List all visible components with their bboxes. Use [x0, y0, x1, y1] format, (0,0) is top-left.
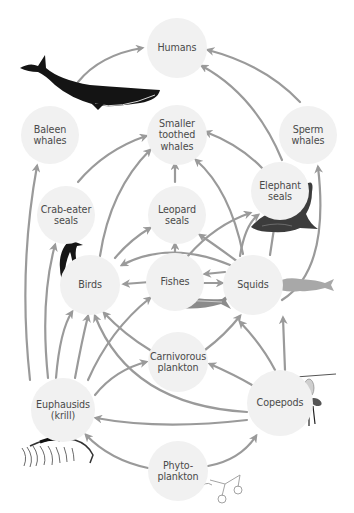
arrow-elephant-to-humans [202, 66, 282, 160]
arrow-krill-to-birds [56, 312, 72, 378]
arrow-squids-to-fishes [205, 272, 225, 274]
node-label: Carnivorous plankton [150, 351, 206, 374]
node-label: Fishes [161, 276, 190, 288]
arrow-birds-to-toothed [100, 150, 150, 256]
node-carniv: Carnivorous plankton [148, 332, 208, 392]
node-fishes: Fishes [146, 253, 204, 311]
node-toothed: Smaller toothed whales [147, 105, 207, 165]
arrow-elephant-to-toothed [206, 132, 262, 168]
node-elephant: Elephant seals [251, 162, 309, 220]
arrow-phyto-to-krill [86, 435, 148, 468]
arrow-sperm-to-humans [208, 50, 300, 102]
arrow-copepods-to-carniv [210, 364, 252, 385]
node-label: Phyto- plankton [157, 460, 198, 483]
arrow-baleen-to-humans [78, 48, 142, 82]
node-birds: Birds [60, 255, 120, 315]
node-crabeater: Crab-eater seals [37, 186, 95, 244]
node-copepods: Copepods [247, 370, 313, 436]
node-humans: Humans [147, 18, 207, 78]
arrow-squids-to-leopard [200, 235, 238, 262]
arrow-copepods-to-squids [240, 322, 275, 370]
node-label: Baleen whales [34, 124, 67, 147]
arrow-krill-to-birds-2 [75, 316, 88, 378]
node-label: Humans [158, 42, 197, 54]
arrow-krill-to-baleen [25, 166, 37, 380]
arrow-carniv-to-squids [205, 316, 240, 350]
node-squids: Squids [223, 255, 283, 315]
arrow-phyto-to-copepods [208, 436, 256, 466]
node-phyto: Phyto- plankton [148, 441, 208, 501]
node-label: Copepods [257, 397, 304, 409]
node-label: Euphausids (krill) [36, 399, 90, 422]
node-leopard: Leopard seals [148, 186, 206, 244]
arrow-krill-to-carniv [95, 362, 146, 395]
food-web-diagram: HumansBaleen whalesSmaller toothed whale… [0, 0, 354, 513]
arrow-krill-to-crabeater [45, 245, 55, 378]
arrow-crabeater-to-toothed [78, 136, 146, 182]
figure-caption [10, 506, 350, 513]
node-krill: Euphausids (krill) [31, 378, 95, 442]
krill-icon [22, 438, 93, 467]
node-label: Elephant seals [259, 180, 301, 203]
node-label: Crab-eater seals [41, 204, 91, 227]
node-label: Birds [78, 279, 102, 291]
arrow-birds-to-leopard [115, 228, 150, 258]
node-baleen: Baleen whales [21, 106, 79, 164]
arrow-copepods-to-squids-2 [283, 318, 285, 370]
node-sperm: Sperm whales [279, 106, 337, 164]
arrow-copepods-to-krill [96, 418, 247, 425]
node-label: Squids [237, 279, 268, 291]
blue-whale-icon [20, 55, 160, 110]
node-label: Sperm whales [292, 124, 325, 147]
node-label: Leopard seals [158, 204, 196, 227]
node-label: Smaller toothed whales [159, 118, 196, 153]
